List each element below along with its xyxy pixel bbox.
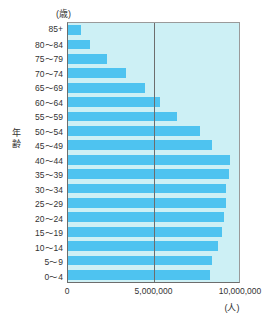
bar bbox=[68, 54, 107, 64]
bar bbox=[68, 198, 226, 208]
bar bbox=[68, 241, 218, 251]
y-axis-tick-label: 15〜19 bbox=[22, 225, 65, 240]
bar bbox=[68, 184, 226, 194]
x-axis-tick-labels: 05,000,00010,000,000 bbox=[0, 286, 270, 300]
y-axis-tick-label: 0〜4 bbox=[22, 269, 65, 284]
bar bbox=[68, 83, 145, 93]
bar bbox=[68, 97, 160, 107]
bar bbox=[68, 40, 90, 50]
bar bbox=[68, 126, 200, 136]
y-axis-title-char: 年 bbox=[10, 128, 22, 139]
y-axis-tick-labels: 85+80〜8475〜7970〜7465〜6960〜6455〜5950〜5445… bbox=[22, 22, 65, 283]
bar bbox=[68, 112, 177, 122]
gridline-5000000 bbox=[154, 23, 155, 282]
bar bbox=[68, 155, 230, 165]
y-axis-unit-label: (歳) bbox=[56, 7, 71, 20]
bar bbox=[68, 169, 229, 179]
bar bbox=[68, 25, 81, 35]
y-axis-tick-label: 30〜34 bbox=[22, 182, 65, 197]
y-axis-tick-label: 70〜74 bbox=[22, 66, 65, 81]
y-axis-tick-label: 55〜59 bbox=[22, 109, 65, 124]
y-axis-tick-label: 50〜54 bbox=[22, 124, 65, 139]
bar bbox=[68, 212, 224, 222]
y-axis-tick-label: 65〜69 bbox=[22, 80, 65, 95]
bar bbox=[68, 68, 126, 78]
x-axis-unit-label: (人) bbox=[225, 301, 240, 314]
x-axis-tick-label: 0 bbox=[65, 286, 70, 296]
y-axis-tick-label: 5〜9 bbox=[22, 254, 65, 269]
y-axis-title-char: 齢 bbox=[10, 139, 22, 150]
y-axis-tick-label: 80〜84 bbox=[22, 37, 65, 52]
y-axis-tick-label: 25〜29 bbox=[22, 196, 65, 211]
bar bbox=[68, 270, 210, 280]
y-axis-tick-label: 60〜64 bbox=[22, 95, 65, 110]
y-axis-tick-label: 45〜49 bbox=[22, 138, 65, 153]
x-axis-tick-label: 5,000,000 bbox=[135, 286, 173, 296]
y-axis-tick-label: 20〜24 bbox=[22, 211, 65, 226]
plot-area bbox=[67, 22, 240, 283]
y-axis-tick-label: 35〜39 bbox=[22, 167, 65, 182]
bar bbox=[68, 256, 212, 266]
y-axis-tick-label: 40〜44 bbox=[22, 153, 65, 168]
y-axis-tick-label: 85+ bbox=[22, 22, 65, 37]
bar bbox=[68, 140, 212, 150]
population-pyramid-chart: (歳) 年齢 85+80〜8475〜7970〜7465〜6960〜6455〜59… bbox=[0, 0, 270, 321]
y-axis-tick-label: 10〜14 bbox=[22, 240, 65, 255]
bar bbox=[68, 227, 222, 237]
y-axis-tick-label: 75〜79 bbox=[22, 51, 65, 66]
x-axis-tick-label: 10,000,000 bbox=[219, 286, 262, 296]
y-axis-title: 年齢 bbox=[10, 128, 22, 150]
